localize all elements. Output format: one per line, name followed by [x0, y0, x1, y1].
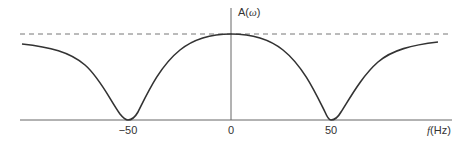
- y-axis-label: A(ω): [238, 6, 260, 18]
- tick-label-neg50: −50: [119, 124, 138, 136]
- x-axis-label: f(Hz): [427, 124, 451, 136]
- filter-response-chart: A(ω) −50 0 50 f(Hz): [0, 0, 464, 147]
- tick-label-50: 50: [325, 124, 337, 136]
- response-curve: [22, 34, 438, 120]
- tick-label-0: 0: [228, 124, 234, 136]
